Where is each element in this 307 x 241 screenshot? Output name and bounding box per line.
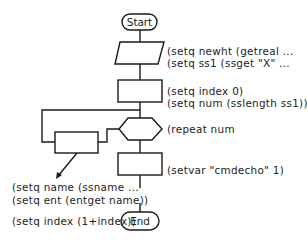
loop-annotation-line1: (setq name (ssname ... — [12, 181, 139, 193]
init-annotation-line1: (setq index 0) — [167, 85, 243, 97]
repeat-annotation: (repeat num — [167, 123, 235, 135]
loop-annotation-line2: (setq ent (entget name)) — [12, 194, 148, 206]
setvar-annotation: (setvar "cmdecho" 1) — [167, 164, 284, 176]
flowchart-canvas: Start End (setq newht (getreal ... (setq… — [0, 0, 307, 241]
input-annotation-line1: (setq newht (getreal ... — [167, 45, 294, 57]
repeat-hexagon[interactable] — [119, 118, 162, 140]
start-label: Start — [127, 16, 152, 28]
init-annotation-line2: (setq num (sslength ss1)) — [167, 97, 307, 109]
start-node[interactable]: Start — [122, 14, 157, 30]
annotation-arrow — [58, 153, 77, 176]
loop-body-process-box[interactable] — [55, 132, 98, 153]
init-process-box[interactable] — [118, 80, 162, 102]
setvar-process-box[interactable] — [118, 153, 162, 175]
input-parallelogram[interactable] — [115, 42, 164, 64]
loop-body-to-repeat-connector — [98, 129, 119, 142]
loop-annotation-line3: (setq index (1+index)) — [12, 215, 136, 227]
input-annotation-line2: (setq ss1 (ssget "X" ... — [167, 57, 290, 69]
